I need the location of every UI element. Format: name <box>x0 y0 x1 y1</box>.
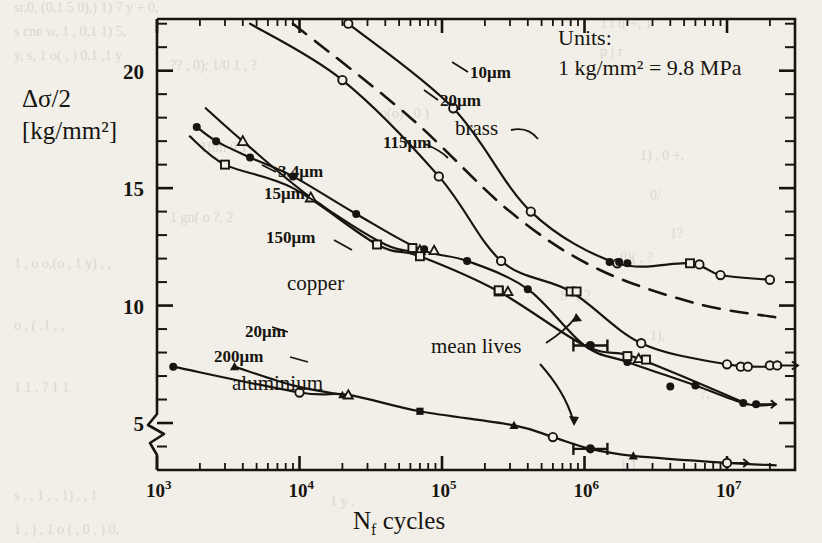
svg-text:200μm: 200μm <box>214 347 263 366</box>
svg-text:5: 5 <box>134 412 145 436</box>
data-point <box>739 399 747 407</box>
data-point <box>691 381 699 389</box>
svg-text:1) , 0 +,: 1) , 0 +, <box>640 148 684 164</box>
data-point <box>695 260 703 268</box>
data-point <box>615 258 623 266</box>
svg-text:1 , o o,(o , 1 y) , ,: 1 , o o,(o , 1 y) , , <box>14 256 111 272</box>
svg-text:Units:: Units: <box>558 25 612 50</box>
svg-text:1 gn( o ?, 2: 1 gn( o ?, 2 <box>170 210 233 226</box>
data-point <box>352 210 360 218</box>
svg-text:150μm: 150μm <box>266 228 315 247</box>
data-point <box>744 362 752 370</box>
data-point <box>716 271 724 279</box>
svg-text:s , , 1 , , 1) , ,: s , , 1 , , 1) , , 1 <box>14 488 98 504</box>
svg-text:mean lives: mean lives <box>431 334 521 358</box>
svg-text:copper: copper <box>287 271 344 295</box>
data-point <box>573 287 581 295</box>
sn-curve-figure: sr,0, (0,1 5 0),) 1) 7 y + 0,s cne w, 1 … <box>0 0 822 543</box>
svg-text:brass: brass <box>455 116 498 140</box>
data-point <box>723 459 731 467</box>
data-point <box>723 360 731 368</box>
data-point <box>408 244 416 252</box>
svg-text:y, s, 1 o( , ) 0,1 ,1: y, s, 1 o( , ) 0,1 ,1 y <box>14 48 122 64</box>
svg-text:20μm: 20μm <box>245 322 286 341</box>
svg-text:[kg/mm²]: [kg/mm²] <box>22 117 117 144</box>
svg-text:Δσ/2: Δσ/2 <box>22 85 71 112</box>
data-point <box>524 285 532 293</box>
svg-text:15: 15 <box>123 177 144 201</box>
data-point <box>527 207 535 215</box>
data-point <box>169 363 177 371</box>
svg-text:10μm: 10μm <box>470 63 511 82</box>
data-point <box>752 400 760 408</box>
data-point <box>221 161 229 169</box>
data-point <box>637 339 645 347</box>
svg-text:1 , ) , 1 o ( , 0 , ): 1 , ) , 1 o ( , 0 , ) 0, <box>14 522 119 538</box>
svg-text:?? , 0); 1/0 1 , ?: ?? , 0); 1/0 1 , ? <box>170 58 257 74</box>
data-point <box>606 258 614 266</box>
svg-text:o , ( ,1 , ,: o , ( ,1 , , <box>14 318 64 334</box>
svg-text:15μm: 15μm <box>264 184 305 203</box>
svg-text:115μm: 115μm <box>383 133 431 152</box>
data-point <box>497 257 505 265</box>
svg-text:1?: 1? <box>670 226 683 241</box>
svg-text:1 1 , ? 1 1: 1 1 , ? 1 1 <box>14 380 69 395</box>
svg-text:20: 20 <box>123 60 144 84</box>
data-point <box>766 276 774 284</box>
svg-text:1 kg/mm² = 9.8 MPa: 1 kg/mm² = 9.8 MPa <box>558 55 742 80</box>
data-point <box>344 19 352 27</box>
data-point <box>373 241 381 249</box>
data-point <box>193 123 201 131</box>
svg-text:Nf cycles: Nf cycles <box>353 507 445 538</box>
svg-text:0/: 0/ <box>650 188 661 203</box>
svg-text:s cne w, 1 , 0,1 1): s cne w, 1 , 0,1 1) 5, <box>14 24 126 40</box>
data-point <box>416 252 424 260</box>
data-point <box>623 259 631 267</box>
data-point <box>338 76 346 84</box>
data-point <box>212 137 220 145</box>
figure-canvas: sr,0, (0,1 5 0),) 1) 7 y + 0,s cne w, 1 … <box>0 0 822 543</box>
data-point <box>420 245 428 253</box>
data-point <box>463 257 471 265</box>
data-point <box>246 154 254 162</box>
svg-text:10: 10 <box>123 295 144 319</box>
data-point <box>666 383 674 391</box>
svg-text:1 y ,: 1 y , <box>330 494 355 509</box>
data-point <box>435 172 443 180</box>
x-axis-label: Nf cycles <box>353 507 445 538</box>
svg-text:3.4μm: 3.4μm <box>278 162 323 181</box>
data-point <box>416 408 423 415</box>
svg-text:1),: 1), <box>650 328 665 344</box>
data-point <box>686 259 694 267</box>
svg-text:sr,0, (0,1 5 0),) 1) 7 y: sr,0, (0,1 5 0),) 1) 7 y + 0, <box>14 0 159 16</box>
data-point <box>549 433 557 441</box>
svg-text:20μm: 20μm <box>440 91 481 110</box>
data-point <box>642 356 650 364</box>
svg-text:aluminium: aluminium <box>232 371 323 395</box>
data-point <box>623 352 631 360</box>
data-point <box>495 286 503 294</box>
